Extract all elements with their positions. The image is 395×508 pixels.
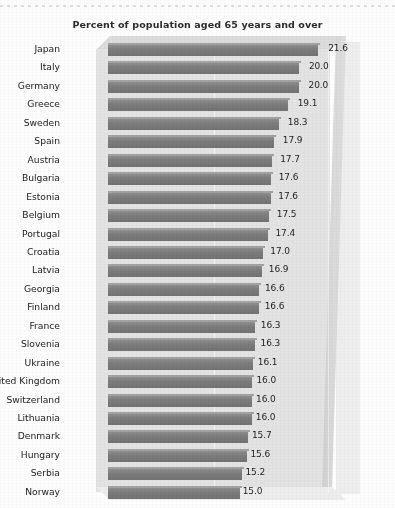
bar-value-label: 16.3 (261, 338, 281, 348)
bar-row: Norway15.0 (96, 483, 360, 505)
chart-page: Percent of population aged 65 years and … (0, 0, 395, 508)
bar-rows: Japan21.6Italy20.0Germany20.0Greece19.1S… (96, 36, 360, 498)
bar (108, 451, 247, 462)
top-dashed-rule (0, 5, 395, 7)
bar (108, 396, 252, 407)
bar-value-label: 20.0 (309, 80, 329, 90)
category-label: Estonia (0, 191, 60, 202)
bar-value-label: 17.0 (270, 246, 290, 256)
bar-value-label: 19.1 (298, 98, 318, 108)
bar (108, 340, 255, 351)
category-label: Sweden (0, 117, 60, 128)
category-label: United Kingdom (0, 375, 60, 386)
bar (108, 119, 279, 130)
bar-value-label: 17.7 (280, 154, 300, 164)
chart-title: Percent of population aged 65 years and … (0, 19, 395, 30)
bar (108, 156, 272, 167)
bar-value-label: 17.6 (278, 191, 298, 201)
bar-value-label: 16.6 (265, 283, 285, 293)
category-label: Germany (0, 80, 60, 91)
bar-value-label: 16.0 (256, 394, 276, 404)
bar-value-label: 15.0 (243, 486, 263, 496)
category-label: Spain (0, 135, 60, 146)
bar (108, 174, 271, 185)
bar (108, 359, 253, 370)
bar (108, 414, 252, 425)
figure-caption-clipped (0, 503, 395, 508)
bar (108, 211, 269, 222)
bar (108, 248, 263, 259)
category-label: Bulgaria (0, 172, 60, 183)
bar-value-label: 16.6 (265, 301, 285, 311)
bar (108, 82, 299, 93)
bar-value-label: 18.3 (288, 117, 308, 127)
bar-value-label: 16.0 (256, 375, 276, 385)
bar (108, 230, 268, 241)
category-label: Lithuania (0, 412, 60, 423)
category-label: Latvia (0, 264, 60, 275)
bar-value-label: 15.7 (252, 430, 272, 440)
category-label: Portugal (0, 228, 60, 239)
bar (108, 137, 274, 148)
bar (108, 285, 259, 296)
bar-value-label: 16.1 (258, 357, 278, 367)
category-label: Slovenia (0, 338, 60, 349)
bar (108, 100, 288, 111)
category-label: Greece (0, 98, 60, 109)
bar-value-label: 17.9 (283, 135, 303, 145)
category-label: Georgia (0, 283, 60, 294)
bar-value-label: 21.6 (328, 43, 348, 53)
bar-value-label: 17.6 (279, 172, 299, 182)
bar (108, 45, 318, 56)
category-label: Finland (0, 301, 60, 312)
bar (108, 488, 240, 499)
category-label: Denmark (0, 430, 60, 441)
category-label: Japan (0, 43, 60, 54)
category-label: Ukraine (0, 357, 60, 368)
category-label: Serbia (0, 467, 60, 478)
bar-value-label: 16.0 (256, 412, 276, 422)
bar (108, 469, 242, 480)
category-label: Norway (0, 486, 60, 497)
bar-value-label: 16.3 (261, 320, 281, 330)
bar (108, 322, 255, 333)
bar (108, 432, 248, 443)
bar-value-label: 17.4 (275, 228, 295, 238)
category-label: Belgium (0, 209, 60, 220)
category-label: Austria (0, 154, 60, 165)
bar-value-label: 20.0 (309, 61, 329, 71)
bar (108, 303, 259, 314)
category-label: France (0, 320, 60, 331)
bar (108, 377, 252, 388)
category-label: Hungary (0, 449, 60, 460)
category-label: Italy (0, 61, 60, 72)
bar-value-label: 15.6 (250, 449, 270, 459)
bar-value-label: 15.2 (245, 467, 265, 477)
bar-value-label: 16.9 (269, 264, 289, 274)
category-label: Croatia (0, 246, 60, 257)
plot-area-3d: Japan21.6Italy20.0Germany20.0Greece19.1S… (96, 36, 360, 498)
bar-value-label: 17.5 (277, 209, 297, 219)
category-label: Switzerland (0, 394, 60, 405)
bar (108, 193, 271, 204)
bar (108, 266, 262, 277)
bar (108, 63, 299, 74)
